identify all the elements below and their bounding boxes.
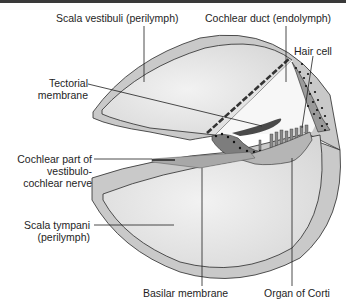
- label-line: vestibulo-: [4, 165, 92, 177]
- label-line: (perilymph): [10, 231, 90, 243]
- label-line: cochlear nerve: [4, 177, 92, 189]
- label-basilar-membrane: Basilar membrane: [143, 287, 228, 299]
- label-scala-tympani: Scala tympani (perilymph): [10, 219, 90, 243]
- label-hair-cell: Hair cell: [294, 45, 332, 57]
- label-cochlear-nerve: Cochlear part of vestibulo- cochlear ner…: [4, 153, 92, 189]
- label-organ-of-corti: Organ of Corti: [264, 287, 330, 299]
- label-cochlear-duct: Cochlear duct (endolymph): [205, 12, 331, 24]
- label-line: Tectorial: [30, 77, 88, 89]
- label-tectorial-membrane: Tectorial membrane: [30, 77, 88, 101]
- label-line: Scala tympani: [10, 219, 90, 231]
- label-scala-vestibuli: Scala vestibuli (perilymph): [56, 12, 179, 24]
- label-line: Cochlear part of: [4, 153, 92, 165]
- label-line: membrane: [30, 89, 88, 101]
- cochlea-diagram: Scala vestibuli (perilymph) Cochlear duc…: [0, 0, 346, 306]
